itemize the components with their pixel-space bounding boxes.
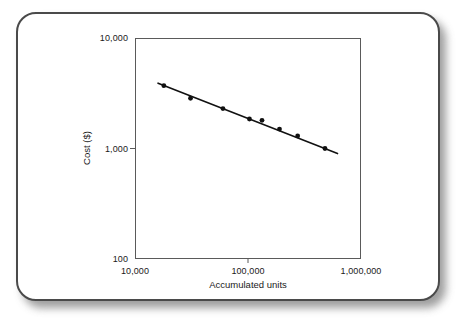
chart-stage: 10,0001,00010010,000100,0001,000,000 Cos… — [0, 0, 459, 323]
x-axis-tick-label: 10,000 — [121, 266, 149, 276]
y-axis-tick-label: 100 — [90, 254, 128, 264]
figure-root: 10,0001,00010010,000100,0001,000,000 Cos… — [0, 0, 459, 323]
y-axis-tick-label: 10,000 — [90, 33, 128, 43]
x-axis-tick-label: 100,000 — [231, 266, 264, 276]
x-axis-tick-label: 1,000,000 — [341, 266, 382, 276]
plot-area-frame — [135, 38, 361, 259]
y-axis-tick-label: 1,000 — [90, 144, 128, 154]
y-axis-title: Cost ($) — [81, 131, 92, 165]
x-axis-title: Accumulated units — [209, 279, 287, 290]
